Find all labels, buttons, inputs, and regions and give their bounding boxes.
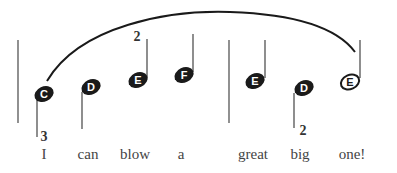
note-letter: D [87,81,95,93]
note-letter: E [134,74,141,86]
note-letter: C [40,88,48,100]
lyric-word: great [238,146,268,163]
lyric-word: I [42,146,47,163]
slur-arc [47,12,355,81]
note-letter: D [300,82,308,94]
note-letter: F [181,69,188,81]
fingering-number: 3 [41,129,48,145]
note-letter: E [251,75,258,87]
music-staff: C D E F E D E [0,0,397,173]
lyric-word: big [290,146,309,163]
fingering-number: 2 [300,123,307,139]
lyric-word: can [78,146,99,163]
lyric-word: a [178,146,185,163]
lyric-word: one! [339,146,366,163]
fingering-number: 2 [134,29,141,45]
lyric-word: blow [120,146,150,163]
note-letter: E [346,76,353,88]
